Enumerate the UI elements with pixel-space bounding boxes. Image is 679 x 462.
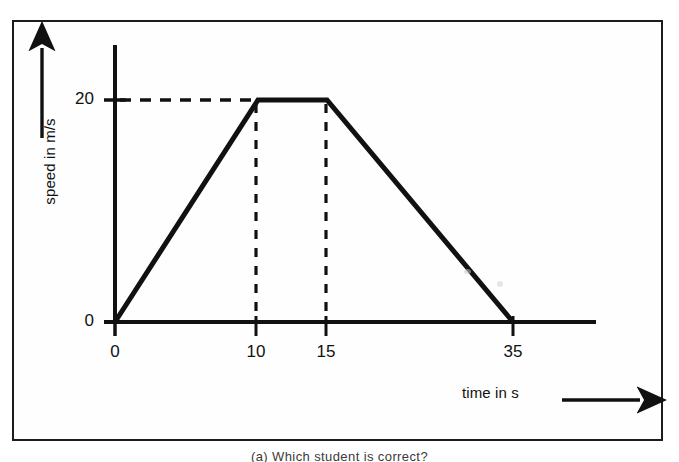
speed-time-curve [115,100,513,322]
speed-time-graph [0,0,679,462]
x-tick-label-0: 0 [95,342,135,362]
x-tick-label-15: 15 [306,342,346,362]
y-tick-label-20: 20 [48,89,94,109]
y-tick-label-0: 0 [48,311,94,331]
x-tick-label-10: 10 [236,342,276,362]
scan-speck [464,269,471,274]
scan-speck [497,281,503,287]
x-axis-title: time in s [462,384,519,401]
y-axis-title-group: speed in m/s [18,45,80,330]
figure-page: speed in m/s time in s 20 0 0 10 15 35 (… [0,0,679,462]
x-tick-label-35: 35 [493,342,533,362]
figure-caption: (a) Which student is correct? [0,449,679,462]
